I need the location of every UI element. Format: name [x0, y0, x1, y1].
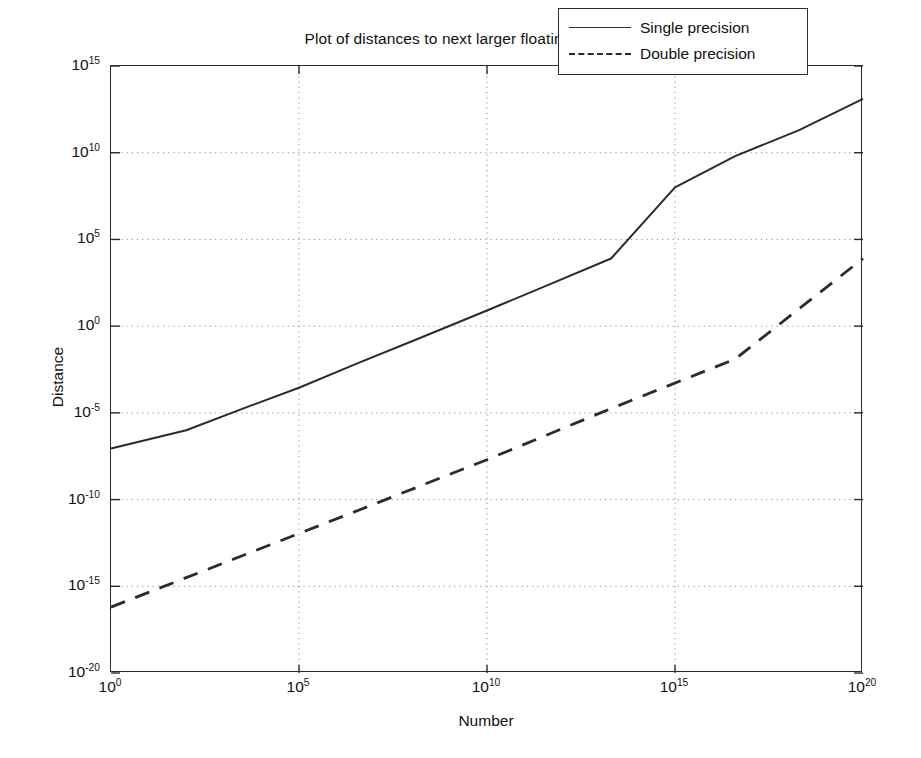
y-tick-label: 100 [0, 316, 100, 334]
x-tick-label: 105 [253, 678, 343, 696]
x-tick-label: 100 [65, 678, 155, 696]
series-line-single-precision [111, 99, 863, 448]
legend-label-single-precision: Single precision [640, 19, 749, 37]
y-tick-label: 10-10 [0, 490, 100, 508]
grid-layer [111, 66, 863, 673]
legend-label-double-precision: Double precision [640, 45, 755, 63]
x-tick-label: 1010 [441, 678, 531, 696]
y-tick-label: 1015 [0, 56, 100, 74]
plot-area [110, 65, 862, 672]
x-axis-label: Number [110, 712, 862, 730]
series-layer [111, 66, 863, 673]
y-tick-label: 105 [0, 229, 100, 247]
figure-root: Plot of distances to next larger floatin… [0, 0, 921, 758]
legend: Single precision Double precision [558, 8, 808, 75]
x-tick-label: 1015 [629, 678, 719, 696]
legend-item-single: Single precision [559, 15, 807, 41]
y-tick-label: 1010 [0, 143, 100, 161]
y-tick-label: 10-15 [0, 576, 100, 594]
legend-swatch-solid-line [569, 22, 631, 34]
legend-swatch-dashed-line [569, 48, 631, 60]
x-tick-label: 1020 [817, 678, 907, 696]
legend-item-double: Double precision [559, 41, 807, 67]
y-tick-label: 10-5 [0, 403, 100, 421]
